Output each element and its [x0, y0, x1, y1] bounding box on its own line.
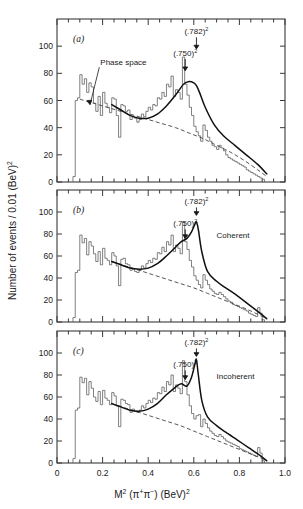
- x-tick-label: 0.2: [97, 468, 109, 478]
- y-tick-label: 0: [48, 458, 53, 468]
- y-tick-label: 0: [48, 317, 53, 327]
- x-tick-label: 0.4: [142, 468, 154, 478]
- y-tick-label: 20: [44, 295, 54, 305]
- histogram-steps: [73, 57, 265, 182]
- y-tick-label: 20: [44, 150, 54, 160]
- omega-resonance-label: (.782)2: [184, 196, 208, 206]
- y-tick-label: 100: [39, 207, 53, 217]
- panel-c: 02040608010000.20.40.60.81.0(c)(.750)2(.…: [39, 331, 291, 478]
- panel-a: 020406080100(a)(.750)2(.782)2Phase space: [39, 19, 285, 187]
- x-tick-label: 0: [55, 468, 60, 478]
- rho-resonance-arrow-head: [183, 376, 188, 380]
- phase-space-arrow-head: [87, 100, 92, 104]
- rho-resonance-arrow-head: [183, 67, 188, 71]
- omega-resonance-label: (.782)2: [184, 337, 208, 347]
- rho-resonance-label: (.750)2: [173, 48, 197, 58]
- panel-frame: [57, 331, 285, 463]
- background-phase-space-curve: [112, 404, 267, 461]
- x-tick-label: 0.6: [188, 468, 200, 478]
- physics-figure: Number of events / 0.01 (BeV)2M2 (π+π−) …: [0, 0, 303, 509]
- background-phase-space-curve: [112, 262, 267, 319]
- y-tick-label: 60: [44, 392, 54, 402]
- y-axis-title: Number of events / 0.01 (BeV)2: [6, 161, 18, 300]
- omega-resonance-arrow-head: [194, 212, 199, 216]
- panel-caption: Incoherent: [217, 372, 256, 381]
- y-tick-label: 20: [44, 436, 54, 446]
- omega-resonance-label: (.782)2: [184, 26, 208, 36]
- panel-letter-label: (a): [73, 34, 84, 45]
- panel-frame: [57, 190, 285, 322]
- omega-resonance-arrow-head: [194, 353, 199, 357]
- panel-caption: Coherent: [217, 231, 251, 240]
- svg-text:M2 (π+π−) (BeV)2: M2 (π+π−) (BeV)2: [114, 488, 190, 500]
- svg-text:Number of events / 0.01 (BeV): Number of events / 0.01 (BeV)2: [6, 161, 18, 300]
- y-tick-label: 80: [44, 229, 54, 239]
- y-tick-label: 80: [44, 68, 54, 78]
- x-tick-label: 1.0: [279, 468, 291, 478]
- panel-b: 020406080100(b)(.750)2(.782)2Coherent: [39, 190, 285, 327]
- phase-space-label: Phase space: [100, 58, 147, 67]
- panel-letter-label: (b): [73, 205, 84, 216]
- x-axis-title: M2 (π+π−) (BeV)2: [114, 488, 190, 500]
- y-tick-label: 0: [48, 177, 53, 187]
- mass-squared-distribution-plot: Number of events / 0.01 (BeV)2M2 (π+π−) …: [0, 0, 303, 509]
- x-tick-label: 0.8: [233, 468, 245, 478]
- y-tick-label: 100: [39, 348, 53, 358]
- y-tick-label: 60: [44, 96, 54, 106]
- rho-resonance-label: (.750)2: [173, 218, 197, 228]
- y-tick-label: 40: [44, 273, 54, 283]
- rho-resonance-label: (.750)2: [173, 359, 197, 369]
- y-tick-label: 80: [44, 370, 54, 380]
- y-tick-label: 100: [39, 41, 53, 51]
- y-tick-label: 40: [44, 414, 54, 424]
- panel-letter-label: (c): [73, 346, 84, 357]
- y-tick-label: 40: [44, 123, 54, 133]
- y-tick-label: 60: [44, 251, 54, 261]
- background-phase-space-curve: [80, 99, 267, 176]
